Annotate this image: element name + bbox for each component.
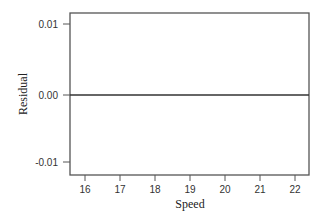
y-axis: 0.01 0.00 -0.01 [35, 19, 70, 168]
x-tick-label: 17 [114, 184, 126, 195]
x-axis: 16 17 18 19 20 21 22 [79, 175, 301, 195]
y-tick-label: -0.01 [35, 157, 58, 168]
x-tick-label: 18 [149, 184, 161, 195]
y-axis-title: Residual [16, 72, 30, 115]
x-tick-label: 16 [79, 184, 91, 195]
x-tick-label: 19 [184, 184, 196, 195]
y-tick-label: 0.00 [39, 90, 59, 101]
plot-frame [70, 13, 309, 175]
x-tick-label: 21 [254, 184, 266, 195]
x-tick-label: 20 [219, 184, 231, 195]
x-axis-title: Speed [175, 197, 204, 211]
y-tick-label: 0.01 [39, 19, 59, 30]
x-tick-label: 22 [289, 184, 301, 195]
residual-plot: 0.01 0.00 -0.01 16 17 18 19 20 21 22 Spe… [0, 0, 332, 221]
